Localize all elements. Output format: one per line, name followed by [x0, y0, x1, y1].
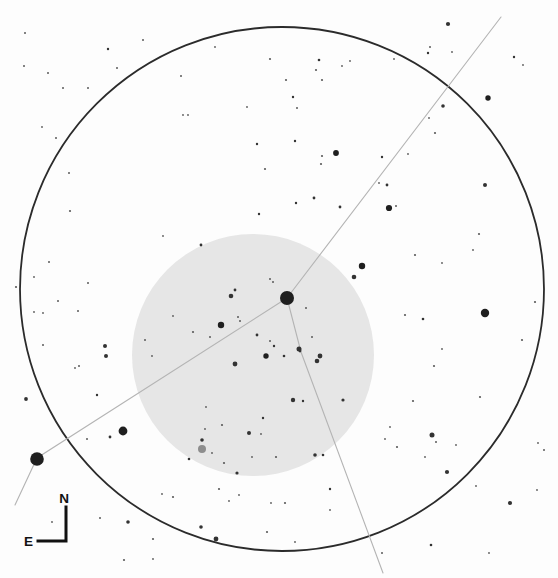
star — [393, 58, 395, 60]
star — [311, 336, 313, 338]
star — [256, 334, 259, 337]
star — [395, 205, 397, 207]
star — [407, 153, 409, 155]
star — [333, 150, 339, 156]
star — [192, 331, 194, 333]
star — [404, 314, 406, 316]
star — [69, 210, 71, 212]
star — [24, 397, 28, 401]
star — [536, 489, 538, 491]
star — [204, 428, 206, 430]
star — [239, 320, 241, 322]
star — [475, 485, 477, 487]
star — [238, 494, 240, 496]
star — [211, 452, 213, 454]
star — [151, 355, 153, 357]
star — [522, 64, 524, 66]
star — [62, 87, 64, 89]
star — [200, 244, 203, 247]
compass-axes — [38, 507, 66, 541]
star — [318, 354, 323, 359]
star — [435, 441, 437, 443]
star — [263, 353, 268, 358]
star — [123, 559, 125, 561]
star — [144, 339, 146, 341]
star — [451, 51, 453, 53]
star — [109, 436, 112, 439]
star — [116, 67, 118, 69]
star — [292, 96, 294, 98]
star — [430, 433, 435, 438]
star — [161, 493, 163, 495]
star — [513, 56, 515, 58]
star — [57, 300, 59, 302]
star — [48, 261, 50, 263]
star — [414, 254, 416, 256]
star — [313, 453, 317, 457]
star — [47, 72, 49, 74]
star — [479, 396, 481, 398]
star — [96, 394, 98, 396]
star — [315, 359, 320, 364]
star — [234, 289, 237, 292]
star — [488, 552, 490, 554]
star — [294, 541, 296, 543]
star — [199, 525, 203, 529]
star — [478, 233, 480, 235]
star — [446, 22, 450, 26]
star — [272, 281, 274, 283]
star — [270, 502, 272, 504]
star — [162, 235, 164, 237]
star — [142, 39, 144, 41]
star — [285, 79, 287, 81]
star — [172, 315, 174, 317]
star — [269, 340, 271, 342]
star — [256, 143, 258, 145]
star — [481, 309, 489, 317]
star — [313, 197, 316, 200]
star — [302, 400, 304, 402]
star — [103, 344, 107, 348]
star — [172, 496, 174, 498]
star — [441, 104, 445, 108]
star — [321, 79, 323, 81]
star — [262, 417, 264, 419]
star — [33, 276, 35, 278]
star — [422, 318, 425, 321]
star — [15, 286, 17, 288]
star — [329, 509, 331, 511]
star — [273, 345, 275, 347]
star — [237, 316, 239, 318]
star — [78, 365, 80, 367]
star — [428, 117, 430, 119]
star — [386, 205, 392, 211]
star — [235, 471, 238, 474]
star — [266, 531, 268, 533]
star — [294, 140, 296, 142]
star — [87, 87, 89, 89]
star — [296, 107, 298, 109]
star — [209, 336, 211, 338]
star — [233, 362, 238, 367]
star — [430, 544, 433, 547]
star — [381, 552, 383, 554]
star — [214, 537, 219, 542]
star — [51, 521, 53, 523]
star — [341, 65, 343, 67]
star — [318, 59, 321, 62]
star — [434, 132, 436, 134]
star — [55, 137, 57, 139]
star — [104, 354, 108, 358]
star — [107, 48, 109, 50]
star — [359, 263, 365, 269]
star — [119, 427, 128, 436]
star — [424, 456, 426, 458]
star — [472, 249, 474, 251]
star — [77, 310, 79, 312]
star — [180, 75, 182, 77]
star — [187, 114, 189, 116]
star — [188, 458, 191, 461]
star — [378, 182, 380, 184]
star — [341, 398, 344, 401]
star — [441, 348, 443, 350]
